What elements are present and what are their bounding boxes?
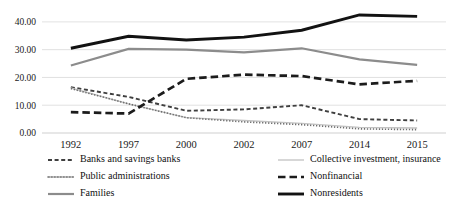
y-axis-tick-label: 10.00: [15, 101, 37, 111]
legend-label: Nonresidents: [310, 187, 363, 198]
y-axis-tick-label: 40.00: [15, 17, 37, 27]
legend-item[interactable]: Nonfinancial: [278, 170, 362, 181]
x-axis-tick-label: 2000: [176, 139, 197, 150]
legend-item[interactable]: Banks and savings banks: [48, 153, 180, 164]
y-axis-tick-label: 20.00: [15, 73, 37, 83]
legend: Banks and savings banksCollective invest…: [48, 153, 441, 198]
x-axis-tick-label: 2002: [234, 139, 255, 150]
series-line-nonresidents: [71, 15, 417, 48]
legend-label: Families: [80, 187, 115, 198]
legend-item[interactable]: Collective investment, insurance: [278, 153, 441, 164]
x-axis: 1992199720002002200720142015: [60, 139, 427, 150]
legend-item[interactable]: Public administrations: [48, 170, 170, 181]
series-line-collective-investment-insurance: [71, 88, 417, 128]
series-line-nonfinancial: [71, 75, 417, 114]
legend-item[interactable]: Families: [48, 187, 115, 198]
series-line-families: [71, 48, 417, 65]
series-line-public-administrations: [71, 89, 417, 130]
x-axis-tick-label: 2007: [291, 139, 312, 150]
y-axis-tick-label: 30.00: [15, 45, 37, 55]
x-axis-tick-label: 2014: [349, 139, 371, 150]
legend-label: Banks and savings banks: [80, 153, 180, 164]
x-axis-tick-label: 1997: [118, 139, 139, 150]
series-line-banks-and-savings-banks: [71, 87, 417, 120]
line-chart: 0.0010.0020.0030.0040.001992199720002002…: [0, 0, 450, 211]
y-axis-tick-label: 0.00: [19, 128, 36, 138]
legend-label: Nonfinancial: [310, 170, 362, 181]
legend-item[interactable]: Nonresidents: [278, 187, 363, 198]
x-axis-tick-label: 2015: [407, 139, 428, 150]
legend-label: Public administrations: [80, 170, 170, 181]
series-group: [71, 15, 417, 130]
legend-label: Collective investment, insurance: [310, 153, 441, 164]
x-axis-tick-label: 1992: [60, 139, 81, 150]
chart-canvas: 0.0010.0020.0030.0040.001992199720002002…: [0, 0, 450, 211]
